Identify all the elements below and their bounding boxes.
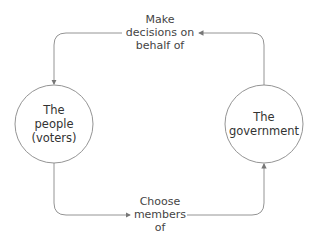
people-label-line: (voters) [31, 131, 76, 145]
people-node: The people (voters) [15, 85, 93, 163]
government-label-line: government [229, 124, 299, 138]
government-label-line: The [229, 110, 299, 124]
people-label-line: The [31, 103, 76, 117]
edge-label-line: members [110, 208, 210, 221]
edge-label-line: Choose [110, 195, 210, 208]
government-node: The government [225, 85, 303, 163]
edge-label-line: of [110, 221, 210, 234]
people-label-line: people [31, 117, 76, 131]
edge-label-top: Make decisions on behalf of [110, 13, 210, 52]
edge-label-bottom: Choose members of [110, 195, 210, 234]
edge-label-line: decisions on [110, 26, 210, 39]
edge-label-line: Make [110, 13, 210, 26]
edge-label-line: behalf of [110, 39, 210, 52]
